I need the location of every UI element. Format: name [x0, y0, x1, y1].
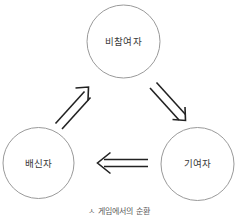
node-label-nonparticipant: 비참여자	[87, 37, 160, 47]
figure-caption: ㅅ 게임에서의 순환	[0, 207, 238, 215]
arrow-nonparticipant-to-contributor	[150, 83, 186, 121]
arrow-contributor-to-betrayer	[98, 153, 149, 174]
arrow-betrayer-to-nonparticipant	[56, 87, 91, 129]
cycle-diagram-canvas	[0, 0, 238, 215]
node-label-contributor: 기여자	[161, 159, 234, 169]
cycle-diagram: 비참여자 배신자 기여자 ㅅ 게임에서의 순환	[0, 0, 238, 215]
node-label-betrayer: 배신자	[3, 159, 74, 169]
